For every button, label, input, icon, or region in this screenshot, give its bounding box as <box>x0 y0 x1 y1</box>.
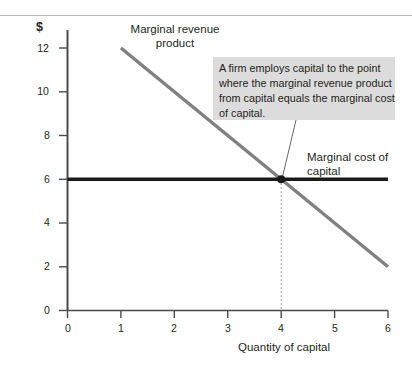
figure-canvas: 0 2 4 6 8 10 12 0 1 2 3 4 5 6 $ Quantity… <box>0 0 412 369</box>
x-tick-label: 0 <box>57 322 79 334</box>
equilibrium-point-marker <box>277 175 285 183</box>
marginal-revenue-product-label: Marginal revenue product <box>121 22 229 50</box>
y-tick-label: 8 <box>36 129 58 141</box>
y-tick-label: 10 <box>32 85 54 97</box>
chart-plot-area <box>0 0 412 369</box>
y-tick-label: 4 <box>36 216 58 228</box>
y-tick-label: 6 <box>36 173 58 185</box>
x-tick-label: 6 <box>377 322 399 334</box>
x-tick-label: 2 <box>163 322 185 334</box>
x-tick-label: 5 <box>324 322 346 334</box>
annotation-leader-line <box>282 120 296 179</box>
x-axis-title: Quantity of capital <box>238 340 330 354</box>
y-tick-label: 0 <box>36 304 58 316</box>
y-tick-label: 12 <box>32 42 54 54</box>
marginal-cost-of-capital-label: Marginal cost of capital <box>307 150 403 178</box>
x-tick-label: 4 <box>270 322 292 334</box>
y-axis-unit-label: $ <box>36 20 43 35</box>
x-tick-label: 1 <box>110 322 132 334</box>
annotation-callout-text: A firm employs capital to the point wher… <box>219 61 395 121</box>
y-tick-label: 2 <box>36 260 58 272</box>
x-tick-label: 3 <box>217 322 239 334</box>
y-axis-ticks <box>59 48 67 311</box>
x-axis-ticks <box>68 311 389 319</box>
